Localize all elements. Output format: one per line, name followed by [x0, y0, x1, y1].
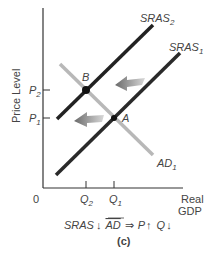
sras2-curve: [57, 25, 153, 119]
point-b: [82, 86, 90, 94]
point-b-label: B: [82, 71, 89, 83]
x-axis-label-line2: GDP: [178, 205, 202, 217]
panel-label: (c): [117, 235, 131, 247]
origin-label: 0: [33, 193, 39, 205]
q1-label: Q1: [109, 193, 122, 208]
point-a: [111, 115, 117, 121]
shift-arrow-upper: [115, 76, 145, 91]
sras2-label: SRAS2: [140, 12, 175, 27]
y-axis-label: Price Level: [10, 69, 22, 123]
shift-arrow-lower: [74, 112, 104, 127]
ad1-curve: [60, 64, 153, 155]
caption: SRAS↓AD⇒P↑Q↓: [64, 219, 172, 231]
ad1-label: AD1: [156, 157, 177, 172]
p2-label: P2: [29, 84, 41, 99]
x-axis-label-line1: Real: [181, 193, 204, 205]
q2-label: Q2: [80, 193, 94, 208]
sras1-label: SRAS1: [169, 41, 203, 56]
sras-shift-diagram: SRAS2 SRAS1 AD1 B A P2 P1 Q2 Q1 0 Real G…: [0, 0, 215, 254]
p1-label: P1: [29, 112, 41, 127]
point-a-label: A: [121, 112, 129, 124]
